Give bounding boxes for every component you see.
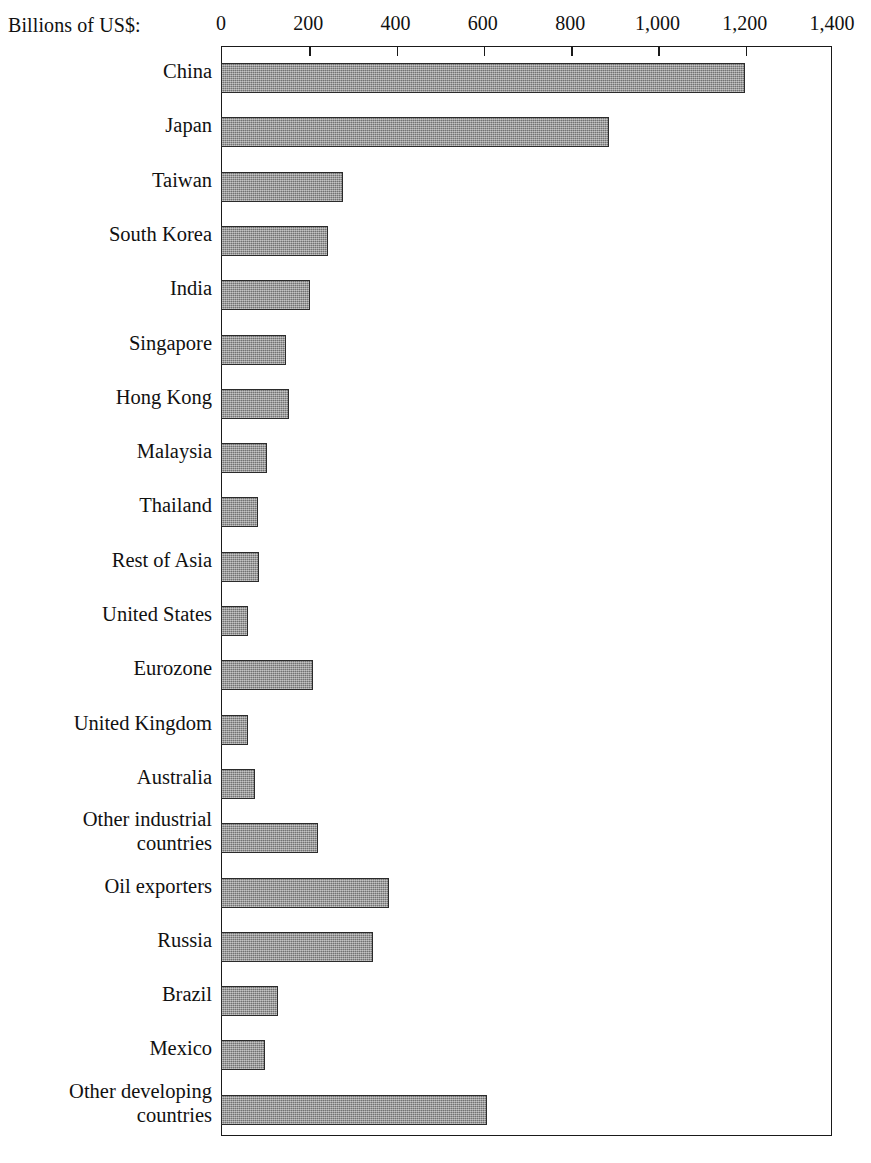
bar-row-thailand: Thailand [0,480,871,534]
bar-row-brazil: Brazil [0,969,871,1023]
bar-row-malaysia: Malaysia [0,426,871,480]
category-label-united-kingdom: United Kingdom [0,711,212,735]
bar-row-russia: Russia [0,915,871,969]
category-label-brazil: Brazil [0,982,212,1006]
bar-thailand [221,497,258,527]
bar-other-developing-countries [221,1095,487,1125]
category-label-malaysia: Malaysia [0,439,212,463]
bar-chart-figure: Billions of US$: 02004006008001,0001,200… [0,0,871,1163]
bar-row-japan: Japan [0,100,871,154]
bar-row-taiwan: Taiwan [0,155,871,209]
bar-australia [221,769,255,799]
category-label-eurozone: Eurozone [0,656,212,680]
category-label-india: India [0,276,212,300]
category-label-other-industrial-countries: Other industrial countries [0,807,212,855]
bar-row-mexico: Mexico [0,1023,871,1077]
category-label-taiwan: Taiwan [0,168,212,192]
bar-other-industrial-countries [221,823,318,853]
bar-row-singapore: Singapore [0,318,871,372]
bar-russia [221,932,373,962]
category-label-oil-exporters: Oil exporters [0,874,212,898]
bar-eurozone [221,660,313,690]
category-label-russia: Russia [0,928,212,952]
bar-oil-exporters [221,878,389,908]
bar-taiwan [221,172,343,202]
bar-row-other-developing-countries: Other developing countries [0,1078,871,1132]
bar-india [221,280,310,310]
bar-row-other-industrial-countries: Other industrial countries [0,806,871,860]
bar-united-kingdom [221,715,248,745]
bar-row-eurozone: Eurozone [0,643,871,697]
category-label-china: China [0,59,212,83]
bar-row-south-korea: South Korea [0,209,871,263]
bar-row-united-states: United States [0,589,871,643]
bar-rest-of-asia [221,552,259,582]
bar-row-china: China [0,46,871,100]
category-label-united-states: United States [0,602,212,626]
category-label-other-developing-countries: Other developing countries [0,1079,212,1127]
category-label-japan: Japan [0,113,212,137]
bar-row-united-kingdom: United Kingdom [0,698,871,752]
bar-brazil [221,986,278,1016]
category-label-mexico: Mexico [0,1036,212,1060]
bar-row-rest-of-asia: Rest of Asia [0,535,871,589]
category-label-thailand: Thailand [0,493,212,517]
bar-united-states [221,606,248,636]
bar-rows-container: ChinaJapanTaiwanSouth KoreaIndiaSingapor… [0,0,871,1163]
category-label-australia: Australia [0,765,212,789]
bar-row-australia: Australia [0,752,871,806]
category-label-south-korea: South Korea [0,222,212,246]
bar-south-korea [221,226,328,256]
bar-japan [221,117,609,147]
bar-row-hong-kong: Hong Kong [0,372,871,426]
bar-malaysia [221,443,267,473]
bar-singapore [221,335,286,365]
bar-mexico [221,1040,265,1070]
bar-hong-kong [221,389,289,419]
category-label-rest-of-asia: Rest of Asia [0,548,212,572]
bar-row-india: India [0,263,871,317]
bar-row-oil-exporters: Oil exporters [0,861,871,915]
category-label-hong-kong: Hong Kong [0,385,212,409]
category-label-singapore: Singapore [0,331,212,355]
bar-china [221,63,745,93]
